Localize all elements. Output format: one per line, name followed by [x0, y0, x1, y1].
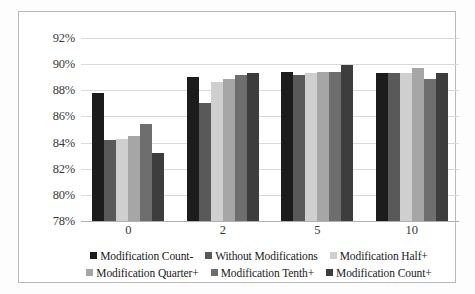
bar: [199, 103, 211, 221]
bar: [412, 68, 424, 221]
legend-item[interactable]: Modification Tenth+: [211, 267, 314, 279]
bar-group-0: [81, 38, 176, 221]
bar: [211, 82, 223, 221]
bar-groups: [81, 38, 459, 221]
legend-row: Modification Quarter+Modification Tenth+…: [49, 264, 469, 281]
bar: [293, 75, 305, 221]
bar-group-2: [176, 38, 271, 221]
bar: [104, 140, 116, 221]
x-axis-labels: 02510: [81, 223, 459, 243]
y-tick-label: 82%: [53, 161, 75, 176]
bars: [376, 38, 448, 221]
plot-area: [81, 38, 459, 221]
legend-swatch-icon: [205, 252, 212, 259]
bar: [436, 73, 448, 221]
legend-swatch-icon: [90, 252, 97, 259]
legend-label: Modification Quarter+: [96, 267, 198, 279]
legend-swatch-icon: [86, 269, 93, 276]
legend-swatch-icon: [211, 269, 218, 276]
legend-item[interactable]: Modification Count-: [90, 250, 193, 262]
chart-frame: 92%90%88%86%84%82%80%78% 02510 Modificat…: [18, 11, 456, 283]
bar: [376, 73, 388, 221]
legend-item[interactable]: Modification Half+: [330, 250, 428, 262]
bar: [317, 72, 329, 221]
legend-item[interactable]: Modification Count+: [326, 267, 432, 279]
legend-swatch-icon: [330, 252, 337, 259]
gridline-78%: [81, 221, 459, 222]
y-tick-label: 86%: [53, 109, 75, 124]
bars: [281, 38, 353, 221]
legend-row: Modification Count-Without Modifications…: [49, 247, 469, 264]
legend-item[interactable]: Modification Quarter+: [86, 267, 198, 279]
y-tick-label: 78%: [53, 214, 75, 229]
legend-label: Modification Count+: [336, 267, 432, 279]
bar: [116, 139, 128, 221]
bar: [281, 72, 293, 221]
legend-swatch-icon: [326, 269, 333, 276]
legend-label: Modification Half+: [340, 250, 428, 262]
x-tick-label: 2: [176, 223, 271, 243]
y-tick-label: 88%: [53, 83, 75, 98]
bar: [388, 73, 400, 221]
chart-legend: Modification Count-Without Modifications…: [49, 247, 469, 281]
legend-label: Modification Count-: [100, 250, 193, 262]
bar: [329, 72, 341, 221]
legend-item[interactable]: Without Modifications: [205, 250, 318, 262]
bar: [92, 93, 104, 221]
bar: [140, 124, 152, 221]
x-tick-label: 5: [270, 223, 365, 243]
y-tick-label: 80%: [53, 187, 75, 202]
bar: [223, 79, 235, 221]
bar: [187, 77, 199, 221]
x-tick-label: 10: [365, 223, 460, 243]
bar: [424, 79, 436, 221]
bar-group-10: [365, 38, 460, 221]
bar: [400, 73, 412, 221]
bars: [187, 38, 259, 221]
y-tick-label: 84%: [53, 135, 75, 150]
bars: [92, 38, 164, 221]
x-tick-label: 0: [81, 223, 176, 243]
bar: [235, 75, 247, 221]
bar: [152, 153, 164, 221]
legend-label: Without Modifications: [215, 250, 318, 262]
bar: [247, 73, 259, 221]
y-tick-label: 92%: [53, 31, 75, 46]
bar: [341, 65, 353, 221]
bar: [128, 136, 140, 221]
y-axis-labels: 92%90%88%86%84%82%80%78%: [37, 38, 81, 221]
chart-figure: 92%90%88%86%84%82%80%78% 02510 Modificat…: [0, 0, 475, 294]
legend-label: Modification Tenth+: [221, 267, 314, 279]
y-tick-label: 90%: [53, 57, 75, 72]
bar-group-5: [270, 38, 365, 221]
bar: [305, 73, 317, 221]
